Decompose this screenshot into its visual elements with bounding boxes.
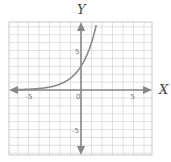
exponential-graph: -5055-5 Y X (0, 0, 171, 162)
y-tick-label: -5 (72, 127, 79, 135)
x-tick-label: 0 (76, 93, 80, 101)
x-tick-label: 5 (131, 93, 135, 101)
y-tick-label: 5 (75, 48, 79, 56)
x-axis-label: X (158, 82, 169, 97)
x-tick-label: -5 (26, 93, 33, 101)
y-axis-label: Y (77, 2, 87, 17)
